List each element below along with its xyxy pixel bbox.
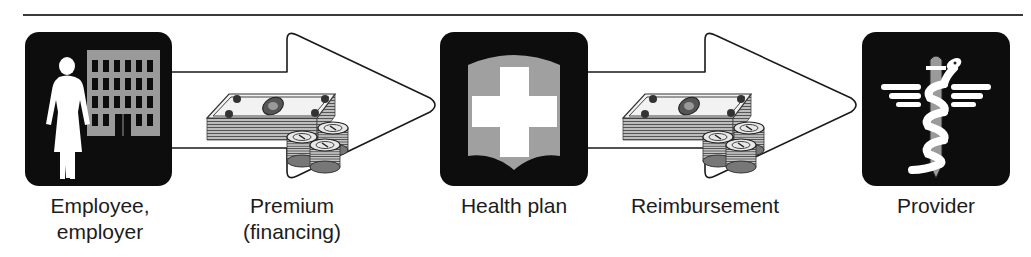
employee-label-line2: employer [20, 219, 180, 245]
premium-label-line2: (financing) [222, 219, 362, 245]
employee-label-line1: Employee, [20, 193, 180, 219]
premium-label-line1: Premium [222, 193, 362, 219]
premium-label: Premium (financing) [222, 193, 362, 245]
provider-node [862, 32, 1010, 186]
building-icon [87, 50, 160, 136]
shield-cross-icon [468, 55, 560, 170]
health-plan-label: Health plan [434, 193, 594, 219]
health-plan-label-line1: Health plan [434, 193, 594, 219]
reimbursement-label: Reimbursement [620, 193, 790, 219]
money-stack-icon [623, 94, 764, 173]
employee-employer-label: Employee, employer [20, 193, 180, 245]
reimbursement-label-line1: Reimbursement [620, 193, 790, 219]
health-plan-node [440, 32, 588, 186]
employee-employer-node [25, 32, 172, 186]
provider-label-line1: Provider [856, 193, 1016, 219]
provider-label: Provider [856, 193, 1016, 219]
money-stack-icon [207, 94, 348, 173]
